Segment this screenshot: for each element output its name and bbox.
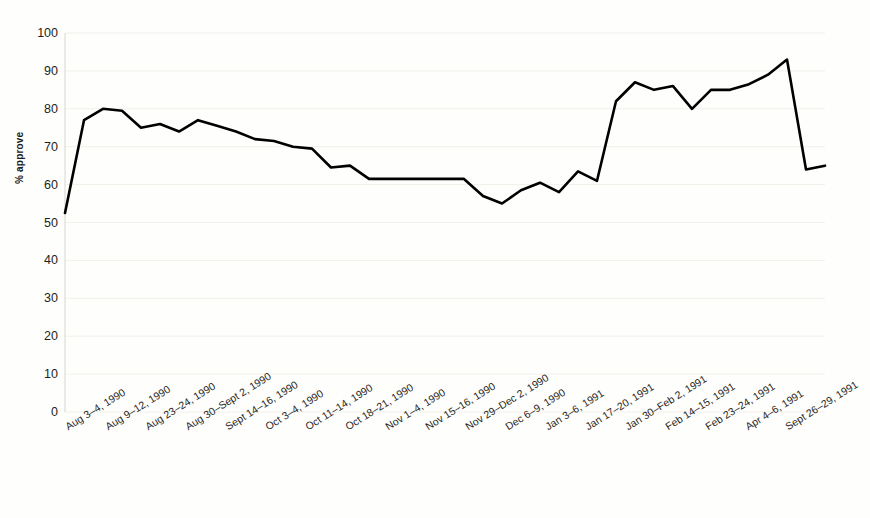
y-axis-tick-label: 80 [26, 102, 58, 116]
y-axis-tick-label: 30 [26, 291, 58, 305]
y-axis-tick-label: 20 [26, 329, 58, 343]
y-axis-tick-label: 40 [26, 253, 58, 267]
y-axis-tick-label: 100 [26, 26, 58, 40]
approval-line-chart: % approve 0102030405060708090100 Aug 3–4… [0, 0, 870, 518]
y-axis-tick-label: 70 [26, 140, 58, 154]
y-axis-tick-label: 50 [26, 216, 58, 230]
y-axis-tick-labels: 0102030405060708090100 [20, 0, 58, 518]
y-axis-tick-label: 60 [26, 178, 58, 192]
y-axis-tick-label: 10 [26, 367, 58, 381]
approval-data-line [65, 60, 825, 214]
chart-canvas [65, 33, 825, 412]
y-axis-tick-label: 90 [26, 64, 58, 78]
y-axis-tick-label: 0 [26, 405, 58, 419]
plot-area [65, 33, 825, 412]
